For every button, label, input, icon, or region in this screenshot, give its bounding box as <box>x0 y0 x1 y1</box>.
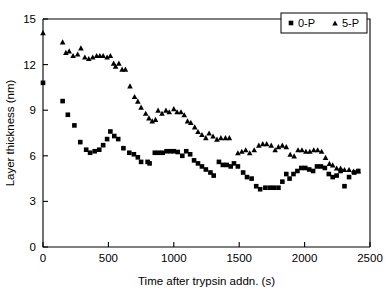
data-point-square <box>284 172 289 177</box>
y-tick-label: 9 <box>30 104 36 116</box>
x-tick-label: 2500 <box>357 252 383 264</box>
data-point-square <box>92 149 97 154</box>
x-tick-label: 0 <box>40 252 46 264</box>
data-point-square <box>232 161 237 166</box>
x-tick-label: 2000 <box>292 252 318 264</box>
data-point-square <box>258 187 263 192</box>
data-point-square <box>330 175 335 180</box>
data-point-square <box>291 172 296 177</box>
data-point-square <box>280 179 285 184</box>
data-point-square <box>272 185 277 190</box>
data-point-square <box>315 164 320 169</box>
data-point-square <box>200 164 205 169</box>
data-point-square <box>147 161 152 166</box>
x-tick-label: 1500 <box>226 252 252 264</box>
data-point-square <box>139 160 144 165</box>
data-point-square <box>224 163 229 168</box>
data-point-square <box>289 21 294 26</box>
data-point-square <box>249 176 254 181</box>
data-point-square <box>204 167 209 172</box>
data-point-square <box>347 175 352 180</box>
legend-label: 5-P <box>342 17 359 29</box>
y-tick-label: 12 <box>23 59 36 71</box>
data-point-square <box>319 164 324 169</box>
data-point-square <box>88 150 93 155</box>
data-point-square <box>136 155 141 160</box>
y-tick-label: 0 <box>30 241 36 253</box>
data-point-square <box>236 164 241 169</box>
data-point-square <box>121 146 126 151</box>
y-axis-title: Layer thickness (nm) <box>4 79 16 186</box>
data-point-square <box>105 137 110 142</box>
data-point-square <box>188 152 193 157</box>
y-tick-label: 6 <box>30 150 36 162</box>
plot-background <box>0 0 390 297</box>
scatter-plot: 0369121505001000150020002500 0-P5-P Time… <box>0 0 390 297</box>
data-point-square <box>221 163 226 168</box>
data-point-square <box>156 150 161 155</box>
data-point-square <box>153 150 158 155</box>
data-point-square <box>112 134 117 139</box>
x-tick-label: 500 <box>99 252 118 264</box>
legend-label: 0-P <box>298 17 315 29</box>
data-point-square <box>160 150 165 155</box>
data-point-square <box>217 160 222 165</box>
data-point-square <box>192 158 197 163</box>
data-point-square <box>307 167 312 172</box>
data-point-square <box>326 172 331 177</box>
data-point-square <box>101 143 106 148</box>
data-point-square <box>245 175 250 180</box>
data-point-square <box>303 166 308 171</box>
data-point-square <box>175 150 180 155</box>
data-point-square <box>311 169 316 174</box>
data-point-square <box>132 152 137 157</box>
data-point-square <box>241 170 246 175</box>
data-point-square <box>323 166 328 171</box>
data-point-square <box>66 112 71 117</box>
data-point-square <box>84 147 89 152</box>
data-point-square <box>172 149 177 154</box>
data-point-square <box>334 173 339 178</box>
data-point-square <box>287 176 292 181</box>
data-point-square <box>108 129 113 134</box>
data-point-square <box>196 161 201 166</box>
y-tick-label: 15 <box>23 13 36 25</box>
x-axis-title: Time after trypsin addn. (s) <box>138 275 275 287</box>
data-point-square <box>116 137 121 142</box>
y-tick-label: 3 <box>30 195 36 207</box>
chart-legend: 0-P5-P <box>281 13 367 33</box>
data-point-square <box>78 140 83 145</box>
data-point-square <box>184 149 189 154</box>
data-point-square <box>72 123 77 128</box>
data-point-square <box>164 149 169 154</box>
data-point-square <box>295 169 300 174</box>
data-point-square <box>97 147 102 152</box>
x-tick-label: 1000 <box>161 252 187 264</box>
data-point-square <box>342 184 347 189</box>
chart-figure: 0369121505001000150020002500 0-P5-P Time… <box>0 0 390 297</box>
data-point-square <box>211 173 216 178</box>
data-point-square <box>268 185 273 190</box>
data-point-square <box>180 154 185 159</box>
data-point-square <box>127 150 132 155</box>
data-point-square <box>254 184 259 189</box>
data-point-square <box>299 166 304 171</box>
data-point-square <box>276 185 281 190</box>
data-point-square <box>263 185 268 190</box>
data-point-square <box>41 81 46 86</box>
data-point-square <box>60 99 65 104</box>
